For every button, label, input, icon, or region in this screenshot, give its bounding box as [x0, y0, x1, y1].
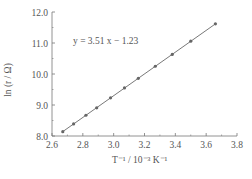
data-point [61, 130, 64, 133]
x-tick-label: 2.6 [46, 140, 58, 150]
x-tick-label: 3.8 [231, 140, 243, 150]
y-tick-label: 8.0 [36, 132, 48, 142]
y-tick-label: 9.0 [36, 101, 48, 111]
y-tick-label: 11.0 [32, 39, 49, 49]
data-point [95, 106, 98, 109]
x-tick-label: 3.0 [108, 140, 120, 150]
data-point [154, 65, 157, 68]
data-point [84, 114, 87, 117]
data-point [72, 122, 75, 125]
data-point [171, 53, 174, 56]
x-tick-label: 3.2 [139, 140, 151, 150]
data-point [109, 96, 112, 99]
y-tick-label: 12.0 [31, 8, 48, 18]
chart: 2.62.83.03.23.43.63.88.09.010.011.012.0 … [0, 0, 252, 179]
x-axis-label: T⁻¹ / 10⁻³ K⁻¹ [112, 155, 168, 165]
x-tick-label: 3.6 [200, 140, 212, 150]
data-point [123, 86, 126, 89]
data-point [189, 40, 192, 43]
y-axis-label: ln (r / Ω) [3, 63, 14, 97]
y-tick-label: 10.0 [31, 70, 48, 80]
data-point [214, 22, 217, 25]
fit-equation: y = 3.51 x − 1.23 [73, 36, 139, 46]
x-tick-label: 3.4 [169, 140, 181, 150]
data-point [137, 77, 140, 80]
x-tick-label: 2.8 [77, 140, 89, 150]
